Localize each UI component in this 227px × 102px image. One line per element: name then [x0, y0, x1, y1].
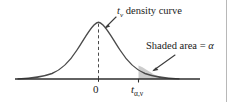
- alpha-symbol: α: [208, 40, 214, 51]
- t-distribution-figure: tν density curve Shaded area = α 0 tα,ν: [0, 0, 227, 102]
- critical-value-subscript: α,ν: [134, 89, 143, 98]
- shaded-label-arrow: [152, 55, 175, 71]
- curve-label: tν density curve: [117, 6, 182, 19]
- shaded-area-label: Shaded area = α: [146, 41, 214, 52]
- axis-tick-label-origin: 0: [93, 84, 99, 95]
- curve-label-text: density curve: [123, 5, 182, 16]
- curve-label-arrow: [105, 17, 116, 28]
- axis-tick-label-critical-value: tα,ν: [131, 84, 143, 98]
- shaded-area-text: Shaded area =: [146, 40, 208, 51]
